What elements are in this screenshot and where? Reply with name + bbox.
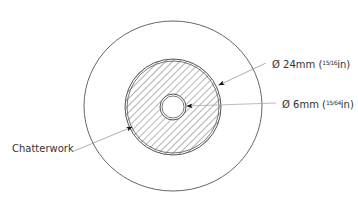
inner-diameter-fraction: 15/64 <box>326 99 341 106</box>
leader-outer-diameter <box>219 63 266 85</box>
inner-diameter-text: Ø 6mm ( <box>282 99 326 110</box>
inner-diameter-label: Ø 6mm (15/64in) <box>282 97 354 111</box>
inner-diameter-unit: in) <box>341 99 354 110</box>
outer-diameter-label: Ø 24mm (15/16in) <box>272 57 350 71</box>
outer-diameter-fraction: 15/16 <box>322 59 337 66</box>
hole-edge-inner <box>162 96 184 118</box>
outer-diameter-unit: in) <box>337 59 350 70</box>
chatterwork-label: Chatterwork <box>12 143 74 155</box>
leader-chatterwork <box>74 127 132 151</box>
outer-diameter-text: Ø 24mm ( <box>272 59 322 70</box>
